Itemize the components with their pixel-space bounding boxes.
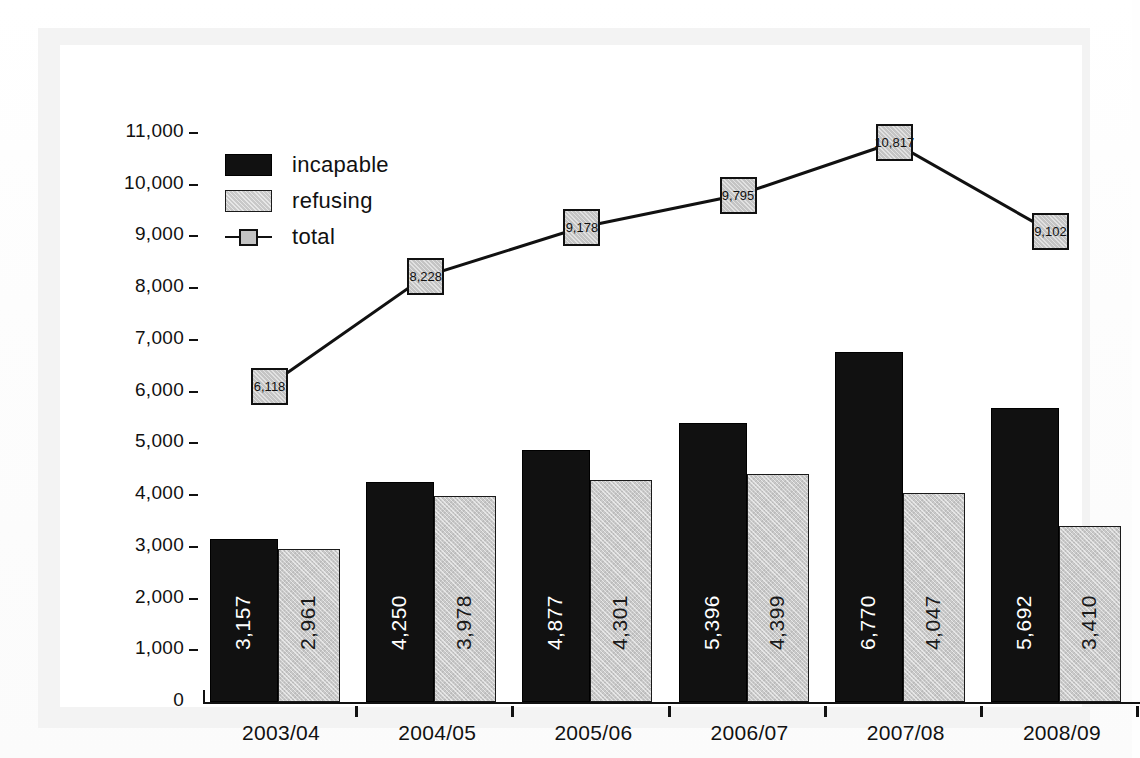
legend-label-total: total bbox=[292, 224, 335, 250]
bar-value-label-incapable: 5,396 bbox=[700, 595, 724, 650]
bar-value-label-incapable: 4,250 bbox=[387, 595, 411, 650]
legend-label-refusing: refusing bbox=[292, 188, 373, 214]
legend-swatch-incapable-icon bbox=[225, 154, 272, 176]
x-axis-tick-mark bbox=[668, 706, 671, 717]
legend-swatch-total-icon bbox=[225, 226, 272, 248]
bar-incapable[interactable] bbox=[679, 423, 747, 702]
y-axis-tick-label: 7,000 bbox=[135, 327, 184, 349]
y-axis-tick-mark bbox=[189, 494, 198, 496]
x-axis-tick-label: 2003/04 bbox=[203, 721, 359, 745]
y-axis-tick-mark bbox=[189, 442, 198, 444]
bar-value-label-incapable: 5,692 bbox=[1012, 595, 1036, 650]
legend-item-total: total bbox=[225, 222, 389, 251]
total-value-label: 6,118 bbox=[254, 379, 286, 394]
total-data-point-marker[interactable]: 9,795 bbox=[720, 177, 757, 214]
y-axis-tick-label: 9,000 bbox=[135, 223, 184, 245]
y-axis-tick-mark bbox=[189, 235, 198, 237]
bar-value-label-refusing: 3,410 bbox=[1077, 595, 1101, 650]
y-axis-tick-label: 8,000 bbox=[135, 275, 184, 297]
bar-value-label-incapable: 4,877 bbox=[543, 595, 567, 650]
bar-refusing[interactable] bbox=[590, 480, 652, 702]
legend-item-incapable: incapable bbox=[225, 150, 389, 179]
legend-swatch-refusing-icon bbox=[225, 190, 272, 212]
bar-refusing[interactable] bbox=[747, 474, 809, 702]
y-axis-tick-mark bbox=[189, 546, 198, 548]
bar-incapable[interactable] bbox=[991, 408, 1059, 702]
total-data-point-marker[interactable]: 10,817 bbox=[876, 124, 913, 161]
y-axis-tick-mark bbox=[189, 184, 198, 186]
x-axis-tick-mark bbox=[511, 706, 514, 717]
bar-incapable[interactable] bbox=[522, 450, 590, 702]
total-value-label: 9,178 bbox=[566, 220, 599, 235]
bar-value-label-refusing: 3,978 bbox=[452, 595, 476, 650]
bar-value-label-refusing: 4,399 bbox=[765, 595, 789, 650]
y-axis: 11,00010,0009,0008,0007,0006,0005,0004,0… bbox=[118, 45, 198, 707]
x-axis-tick-label: 2006/07 bbox=[672, 721, 828, 745]
y-axis-tick-label: 3,000 bbox=[135, 534, 184, 556]
x-axis-tick-label: 2004/05 bbox=[359, 721, 515, 745]
y-axis-tick-label: 0 bbox=[173, 689, 184, 711]
bar-incapable[interactable] bbox=[366, 482, 434, 702]
y-axis-tick-label: 10,000 bbox=[124, 172, 184, 194]
y-axis-tick-mark bbox=[189, 132, 198, 134]
x-axis-tick-mark bbox=[1136, 706, 1139, 717]
legend: incapable refusing total bbox=[225, 150, 389, 258]
y-axis-tick-mark bbox=[189, 598, 198, 600]
legend-line-marker bbox=[239, 229, 258, 246]
x-axis-tick-mark bbox=[824, 706, 827, 717]
y-axis-tick-label: 6,000 bbox=[135, 379, 184, 401]
y-axis-tick-mark bbox=[189, 649, 198, 651]
x-axis-tick-label: 2005/06 bbox=[515, 721, 671, 745]
x-axis-line bbox=[203, 702, 1140, 704]
bar-value-label-refusing: 2,961 bbox=[296, 595, 320, 650]
total-value-label: 8,228 bbox=[409, 269, 442, 284]
y-axis-tick-label: 5,000 bbox=[135, 430, 184, 452]
x-axis-tick-label: 2007/08 bbox=[828, 721, 984, 745]
bar-value-label-refusing: 4,047 bbox=[921, 595, 945, 650]
y-axis-tick-label: 11,000 bbox=[125, 120, 184, 142]
y-axis-tick-mark bbox=[189, 339, 198, 341]
x-axis-tick-label: 2008/09 bbox=[984, 721, 1140, 745]
x-axis-tick-mark bbox=[980, 706, 983, 717]
legend-label-incapable: incapable bbox=[292, 152, 389, 178]
y-axis-tick-label: 2,000 bbox=[135, 586, 184, 608]
total-data-point-marker[interactable]: 9,178 bbox=[563, 209, 600, 246]
total-value-label: 9,102 bbox=[1034, 224, 1067, 239]
bar-value-label-incapable: 6,770 bbox=[856, 595, 880, 650]
total-value-label: 10,817 bbox=[874, 135, 914, 150]
x-axis-tick-mark bbox=[355, 706, 358, 717]
y-axis-tick-mark bbox=[189, 287, 198, 289]
chart-frame: 11,00010,0009,0008,0007,0006,0005,0004,0… bbox=[60, 45, 1082, 707]
y-axis-tick-label: 4,000 bbox=[135, 482, 184, 504]
total-value-label: 9,795 bbox=[722, 188, 755, 203]
y-axis-tick-label: 1,000 bbox=[135, 637, 184, 659]
legend-item-refusing: refusing bbox=[225, 186, 389, 215]
total-data-point-marker[interactable]: 6,118 bbox=[251, 368, 288, 405]
bar-value-label-incapable: 3,157 bbox=[231, 595, 255, 650]
total-data-point-marker[interactable]: 9,102 bbox=[1032, 213, 1069, 250]
bar-value-label-refusing: 4,301 bbox=[608, 595, 632, 650]
y-axis-tick-mark bbox=[189, 391, 198, 393]
total-data-point-marker[interactable]: 8,228 bbox=[407, 258, 444, 295]
